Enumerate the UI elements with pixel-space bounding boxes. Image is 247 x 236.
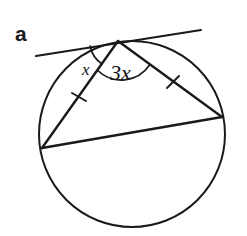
circle-outline [39, 41, 225, 227]
part-label: a [15, 23, 27, 44]
angle-label-3x: 3x [110, 62, 131, 84]
geometry-canvas [0, 0, 247, 236]
chord-left-right [42, 117, 222, 148]
angle-label-x: x [82, 61, 90, 78]
geometry-figure: a x 3x [0, 0, 247, 236]
